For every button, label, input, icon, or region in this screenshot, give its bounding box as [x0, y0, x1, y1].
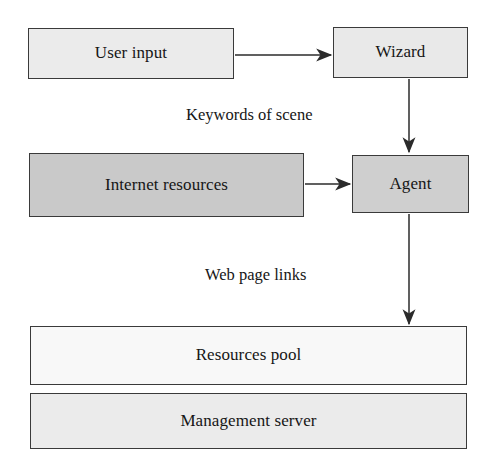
edge-label-web-page-links: Web page links [205, 265, 306, 285]
node-internet-resources-label: Internet resources [105, 176, 228, 195]
node-user-input[interactable]: User input [28, 28, 234, 79]
node-resources-pool[interactable]: Resources pool [30, 326, 467, 385]
node-user-input-label: User input [95, 44, 167, 63]
node-agent[interactable]: Agent [352, 155, 469, 213]
node-internet-resources[interactable]: Internet resources [29, 153, 304, 217]
node-management-server-label: Management server [180, 412, 316, 431]
edge-label-keywords-of-scene: Keywords of scene [186, 105, 312, 125]
node-management-server[interactable]: Management server [30, 393, 467, 449]
node-agent-label: Agent [389, 175, 431, 194]
node-resources-pool-label: Resources pool [196, 346, 302, 365]
node-wizard[interactable]: Wizard [333, 27, 468, 78]
node-wizard-label: Wizard [376, 43, 426, 62]
flow-diagram: User input Wizard Internet resources Age… [0, 0, 492, 471]
